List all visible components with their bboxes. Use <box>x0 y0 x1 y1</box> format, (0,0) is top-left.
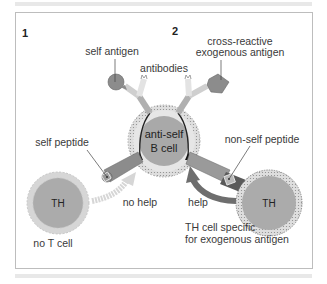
b-cell-label-line1: anti-self <box>145 128 184 140</box>
antibody-left <box>125 75 150 113</box>
no-t-cell-label: no T cell <box>33 237 72 249</box>
panel-number-1: 1 <box>22 27 28 39</box>
antibodies-label: antibodies <box>140 62 188 74</box>
mhc-self-peptide <box>102 152 143 182</box>
anti-self-b-cell: anti-self B cell <box>128 105 200 177</box>
th-right-label: TH <box>262 198 275 209</box>
th-specific-label-line2: for exogenous antigen <box>185 233 289 245</box>
cross-reactive-label-line2: exogenous antigen <box>196 46 285 58</box>
th-specific-label-line1: TH cell specific <box>185 221 256 233</box>
b-cell-label-line2: B cell <box>151 142 178 154</box>
self-antigen-icon <box>108 74 127 90</box>
self-peptide-label: self peptide <box>35 136 89 148</box>
b-cell-tolerance-diagram: 1 2 anti-self B cell self antigen cross-… <box>0 0 327 284</box>
panel-number-2: 2 <box>172 25 178 37</box>
help-label: help <box>188 196 208 208</box>
self-antigen-label: self antigen <box>85 45 139 57</box>
th-left-label: TH <box>51 198 64 209</box>
antibody-right <box>178 75 207 113</box>
non-self-peptide-label: non-self peptide <box>225 133 300 145</box>
no-help-label: no help <box>123 196 158 208</box>
th-cell-absent: TH <box>27 172 89 234</box>
cross-reactive-antigen-icon <box>207 74 229 93</box>
